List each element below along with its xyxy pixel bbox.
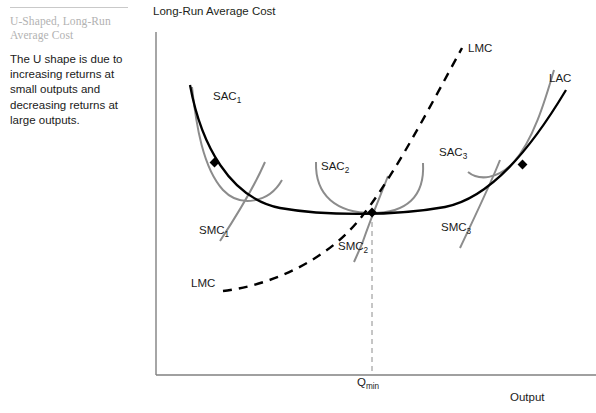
label-smc2: SMC2 xyxy=(338,240,368,252)
x-tick-label-qmin: Qmin xyxy=(357,376,379,388)
sidebar-description: The U shape is due to increasing returns… xyxy=(10,52,136,128)
sidebar-title: U-Shaped, Long-Run Average Cost xyxy=(10,14,140,42)
sidebar-note: U-Shaped, Long-Run Average Cost The U sh… xyxy=(0,0,145,413)
label-sac1: SAC1 xyxy=(213,90,241,102)
label-smc3: SMC3 xyxy=(441,221,471,233)
label-lac: LAC xyxy=(549,72,571,84)
chart-area: Long-Run Average Cost xyxy=(145,0,596,413)
sac3-curve xyxy=(468,70,554,177)
lac-curve xyxy=(190,85,566,214)
tangency-marker-left xyxy=(210,158,220,168)
lrac-plot xyxy=(145,0,596,413)
sidebar-divider xyxy=(10,7,128,8)
tangency-marker-right xyxy=(518,160,528,170)
label-sac2: SAC2 xyxy=(321,160,349,172)
label-smc1: SMC1 xyxy=(199,224,229,236)
label-sac3: SAC3 xyxy=(439,146,467,158)
lrac-diagram-page: U-Shaped, Long-Run Average Cost The U sh… xyxy=(0,0,596,413)
label-lmc-top: LMC xyxy=(468,42,492,54)
label-lmc-left: LMC xyxy=(191,277,215,289)
x-axis-label: Output xyxy=(510,391,545,403)
smc3-curve xyxy=(460,160,500,248)
